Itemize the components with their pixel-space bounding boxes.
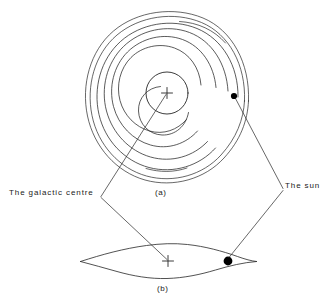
label-galactic-centre: The galactic centre bbox=[9, 188, 94, 197]
spiral-arm-4 bbox=[118, 46, 201, 133]
panel-a-spiral-galaxy bbox=[85, 12, 248, 183]
panel-b-sun-dot bbox=[224, 257, 233, 266]
leader-lines bbox=[101, 95, 283, 260]
label-the-sun: The sun bbox=[285, 181, 320, 190]
spiral-arm-2 bbox=[104, 29, 228, 160]
caption-panel-b: (b) bbox=[157, 284, 169, 293]
panel-a-sun-dot bbox=[231, 93, 237, 99]
leader-galactic-centre-to-panel-a bbox=[101, 95, 166, 197]
leader-galactic-centre-to-panel-b bbox=[101, 198, 167, 260]
leader-the-sun-to-panel-a bbox=[236, 99, 284, 189]
spiral-arm-3 bbox=[112, 36, 216, 146]
leader-the-sun-to-panel-b bbox=[229, 191, 283, 258]
spiral-arm-1 bbox=[97, 23, 238, 170]
panel-a-centre-plus-marker bbox=[162, 88, 173, 99]
figure-drawing-canvas bbox=[0, 0, 333, 301]
caption-panel-a: (a) bbox=[155, 188, 167, 197]
figure-container: The galactic centre The sun (a) (b) bbox=[0, 0, 333, 301]
panel-b-edge-on-disk bbox=[81, 244, 257, 279]
